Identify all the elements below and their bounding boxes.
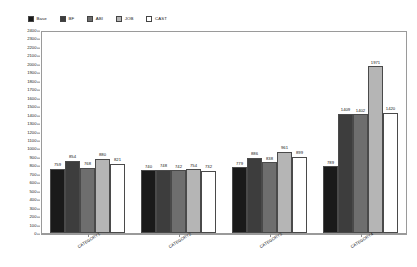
x-category-slot: CATEGORY2 bbox=[149, 234, 209, 267]
legend-item-label: BF bbox=[68, 16, 74, 21]
y-tick-label: 1500 bbox=[27, 105, 36, 109]
y-tick-mark bbox=[37, 208, 40, 209]
bar[interactable] bbox=[292, 157, 307, 233]
legend-swatch-icon bbox=[60, 16, 66, 22]
y-tick-label: 0 bbox=[34, 232, 36, 236]
y-tick-mark bbox=[37, 234, 40, 235]
bar[interactable] bbox=[323, 166, 338, 233]
x-category-label: CATEGORY3 bbox=[259, 232, 283, 249]
bar-group: 7891409140219711420 bbox=[323, 32, 398, 233]
y-tick-label: 1800 bbox=[27, 80, 36, 84]
legend-item-label: JOB bbox=[125, 16, 134, 21]
y-tick-mark bbox=[37, 48, 40, 49]
y-tick-label: 300 bbox=[30, 206, 37, 210]
bar[interactable] bbox=[171, 170, 186, 233]
bar-slot: 821 bbox=[110, 32, 125, 233]
legend-item-base[interactable]: Base bbox=[28, 16, 47, 22]
bar[interactable] bbox=[50, 169, 65, 233]
y-tick-label: 100 bbox=[30, 223, 37, 227]
legend-swatch-icon bbox=[116, 16, 122, 22]
x-category-label: CATEGORY2 bbox=[168, 232, 192, 249]
bar[interactable] bbox=[186, 169, 201, 233]
y-tick-mark bbox=[37, 98, 40, 99]
bar[interactable] bbox=[95, 159, 110, 233]
y-tick-label: 500 bbox=[30, 190, 37, 194]
bar-slot: 748 bbox=[156, 32, 171, 233]
bar-slot: 742 bbox=[171, 32, 186, 233]
bar-slot: 789 bbox=[323, 32, 338, 233]
bar-slot: 1420 bbox=[383, 32, 398, 233]
y-tick-label: 1000 bbox=[27, 147, 36, 151]
bar-group: 759854768880821 bbox=[50, 32, 125, 233]
y-tick-mark bbox=[37, 115, 40, 116]
y-tick-mark bbox=[37, 56, 40, 57]
bar[interactable] bbox=[247, 158, 262, 233]
plot-frame: 7598547688808217407487427547327798868389… bbox=[41, 31, 407, 234]
y-tick-label: 1600 bbox=[27, 96, 36, 100]
bar[interactable] bbox=[156, 170, 171, 233]
y-tick-mark bbox=[37, 174, 40, 175]
bar-slot: 754 bbox=[186, 32, 201, 233]
bar-slot: 880 bbox=[95, 32, 110, 233]
y-tick-label: 900 bbox=[30, 156, 37, 160]
y-axis: 2400230022002100200019001800170016001500… bbox=[0, 31, 40, 234]
bar-value-label: 1402 bbox=[356, 109, 365, 113]
y-tick-mark bbox=[37, 191, 40, 192]
bar-slot: 886 bbox=[247, 32, 262, 233]
bar-slot: 961 bbox=[277, 32, 292, 233]
y-tick-label: 1200 bbox=[27, 130, 36, 134]
bar[interactable] bbox=[262, 162, 277, 233]
bar-value-label: 732 bbox=[205, 165, 212, 169]
y-tick-mark bbox=[37, 200, 40, 201]
y-tick-label: 1700 bbox=[27, 88, 36, 92]
bar-slot: 1402 bbox=[353, 32, 368, 233]
x-category-slot: CATEGORY1 bbox=[58, 234, 118, 267]
y-tick-mark bbox=[37, 31, 40, 32]
bar-value-label: 961 bbox=[281, 146, 288, 150]
bar[interactable] bbox=[201, 171, 216, 233]
bar[interactable] bbox=[141, 170, 156, 233]
bar-group: 779886838961899 bbox=[232, 32, 307, 233]
bar-slot: 854 bbox=[65, 32, 80, 233]
y-tick-mark bbox=[37, 149, 40, 150]
y-tick-label: 800 bbox=[30, 164, 37, 168]
y-tick-label: 1100 bbox=[27, 139, 36, 143]
y-tick-label: 700 bbox=[30, 173, 37, 177]
y-tick-label: 1300 bbox=[27, 122, 36, 126]
y-tick-label: 400 bbox=[30, 198, 37, 202]
y-tick-label: 2200 bbox=[27, 46, 36, 50]
y-tick-mark bbox=[37, 166, 40, 167]
legend-item-cast[interactable]: CAST bbox=[146, 16, 167, 22]
bar[interactable] bbox=[383, 113, 398, 233]
bar[interactable] bbox=[277, 152, 292, 233]
chart-root: BaseBFABIJOBCAST 24002300220021002000190… bbox=[0, 0, 417, 267]
y-tick-mark bbox=[37, 217, 40, 218]
y-tick-label: 200 bbox=[30, 215, 37, 219]
bar[interactable] bbox=[368, 66, 383, 233]
bar-value-label: 1971 bbox=[371, 61, 380, 65]
bar-value-label: 854 bbox=[69, 155, 76, 159]
legend-item-abi[interactable]: ABI bbox=[87, 16, 103, 22]
legend-item-bf[interactable]: BF bbox=[60, 16, 74, 22]
bar-value-label: 768 bbox=[84, 162, 91, 166]
bar-value-label: 821 bbox=[114, 158, 121, 162]
legend-swatch-icon bbox=[146, 16, 152, 22]
legend-swatch-icon bbox=[87, 16, 93, 22]
bar[interactable] bbox=[65, 161, 80, 233]
legend-item-label: ABI bbox=[96, 16, 103, 21]
bar-value-label: 899 bbox=[296, 151, 303, 155]
y-tick-label: 1400 bbox=[27, 113, 36, 117]
bar-slot: 732 bbox=[201, 32, 216, 233]
bar-groups: 7598547688808217407487427547327798868389… bbox=[42, 32, 406, 233]
x-axis: CATEGORY1CATEGORY2CATEGORY3CATEGORY4 bbox=[41, 234, 407, 267]
legend-item-label: CAST bbox=[155, 16, 167, 21]
bar[interactable] bbox=[80, 168, 95, 233]
bar[interactable] bbox=[110, 164, 125, 233]
bar[interactable] bbox=[338, 114, 353, 233]
legend-swatch-icon bbox=[28, 16, 34, 22]
bar[interactable] bbox=[353, 114, 368, 233]
bar-value-label: 880 bbox=[99, 153, 106, 157]
bar[interactable] bbox=[232, 167, 247, 233]
legend-item-job[interactable]: JOB bbox=[116, 16, 133, 22]
bar-value-label: 886 bbox=[251, 152, 258, 156]
